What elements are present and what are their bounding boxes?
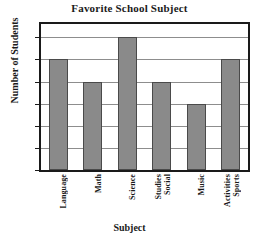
x-axis-category-label-line: Language <box>59 174 68 209</box>
y-axis-tick-mark <box>35 170 39 171</box>
x-axis-category-label: Science <box>117 174 137 226</box>
x-axis-category-label-line: Music <box>197 174 206 195</box>
bar-chart-figure: Favorite School Subject 051015202530 Num… <box>0 0 259 237</box>
x-axis-category-label-line: Math <box>94 174 103 193</box>
x-axis-category-label-line: Activities <box>223 174 232 207</box>
y-axis-ticks: 051015202530 <box>39 22 250 172</box>
y-axis-tick-mark <box>35 126 39 127</box>
x-axis-category-label-line: Social <box>163 174 172 195</box>
y-axis-tick-mark <box>35 104 39 105</box>
x-axis-category-label: Music <box>186 174 206 226</box>
y-axis-tick-mark <box>35 59 39 60</box>
x-axis-category-label: Math <box>83 174 103 226</box>
x-axis-category-label: SocialStudies <box>152 174 172 226</box>
x-axis-category-label-line: Science <box>128 174 137 200</box>
x-axis-category-label: Language <box>48 174 68 226</box>
chart-title: Favorite School Subject <box>0 2 259 14</box>
x-axis-title: Subject <box>0 222 259 233</box>
y-axis-tick-mark <box>35 37 39 38</box>
y-axis-tick-mark <box>35 148 39 149</box>
x-axis-category-label-line: Sports <box>232 174 241 197</box>
x-axis-category-labels: LanguageMathScienceSocialStudiesMusicSpo… <box>39 174 250 226</box>
y-axis-tick-mark <box>35 82 39 83</box>
x-axis-category-label-line: Studies <box>154 174 163 200</box>
y-axis-title: Number of Students <box>9 0 20 131</box>
x-axis-category-label: SportsActivities <box>221 174 241 226</box>
